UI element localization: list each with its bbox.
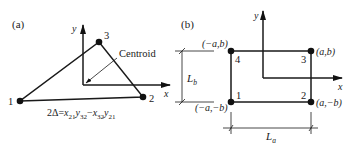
node-2-dot-icon <box>140 94 147 101</box>
node-4-label: 4 <box>235 54 241 65</box>
panel-b-rectangular-element: (b) y x 1 2 3 4 (−a,−b) (a,−b) (a,b) (−a… <box>175 10 343 145</box>
node-2-label: 2 <box>301 90 306 101</box>
centroid-label: Centroid <box>119 48 156 59</box>
node-3-label: 3 <box>301 54 306 65</box>
node-4-coordinate: (−a,b) <box>202 38 229 50</box>
dimension-la-label: La <box>265 130 276 145</box>
y-axis-label: y <box>253 10 259 21</box>
finite-element-diagram: (a) y x Centroid 1 2 3 2Δ=x21y32−x32y21 … <box>0 0 355 150</box>
panel-a-label: (a) <box>12 18 25 31</box>
x-axis-label: x <box>337 81 343 92</box>
rectangle-element <box>231 51 311 102</box>
node-2-coordinate: (a,−b) <box>316 97 343 109</box>
centroid-arrow-icon <box>86 58 117 83</box>
dimension-lb-label: Lb <box>186 72 197 87</box>
node-1-coordinate: (−a,−b) <box>195 102 228 114</box>
node-2-label: 2 <box>149 93 154 104</box>
node-3-coordinate: (a,b) <box>316 46 336 58</box>
dimension-lb: Lb <box>175 48 214 105</box>
node-1-dot-icon <box>228 99 235 106</box>
y-axis-label: y <box>71 23 77 34</box>
panel-b-label: (b) <box>181 18 194 31</box>
area-formula: 2Δ=x21y32−x32y21 <box>47 107 116 121</box>
node-1-dot-icon <box>17 98 24 105</box>
node-4-dot-icon <box>228 48 235 55</box>
node-1-label: 1 <box>236 90 241 101</box>
node-3-dot-icon <box>308 48 315 55</box>
panel-a-triangle-element: (a) y x Centroid 1 2 3 2Δ=x21y32−x32y21 <box>8 18 170 121</box>
node-1-label: 1 <box>8 96 13 107</box>
x-axis-label: x <box>163 88 169 99</box>
node-2-dot-icon <box>308 99 315 106</box>
node-3-dot-icon <box>96 39 103 46</box>
dimension-la: La <box>223 112 318 145</box>
node-3-label: 3 <box>104 30 109 41</box>
